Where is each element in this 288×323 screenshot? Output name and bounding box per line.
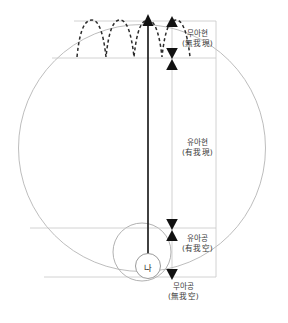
marker-up-yua-gong-icon: [166, 230, 178, 241]
label-yua-gong-hanja: (有我空): [182, 244, 213, 254]
marker-down-bottom-icon: [166, 269, 178, 280]
label-yua-hyeon-korean: 유아현: [187, 138, 209, 147]
label-yua-hyeon: 유아현 (有我現): [182, 138, 213, 157]
label-mua-hyeon: 무아현 (無我現): [182, 29, 213, 48]
label-mua-gong-korean: 무아공: [173, 282, 195, 291]
outer-circle: [19, 25, 266, 272]
label-yua-gong: 유아공 (有我空): [182, 234, 213, 253]
diagram-canvas: 나 무아현 (無我現) 유아현 (有我現) 유아공 (有我空) 무아공 (無我空…: [0, 0, 288, 323]
self-node-label: 나: [138, 261, 158, 273]
label-mua-hyeon-hanja: (無我現): [182, 39, 213, 49]
diagram-svg: [0, 0, 288, 323]
label-yua-hyeon-hanja: (有我現): [182, 148, 213, 158]
marker-up-top-icon: [166, 16, 178, 27]
marker-up-yua-hyeon-icon: [166, 59, 178, 70]
label-mua-gong: 무아공 (無我空): [168, 282, 199, 301]
label-mua-hyeon-korean: 무아현: [187, 29, 209, 38]
label-mua-gong-hanja: (無我空): [168, 292, 199, 302]
marker-down-mua-hyeon-icon: [166, 48, 178, 59]
axis-arrowhead-up-icon: [143, 14, 154, 26]
label-yua-gong-korean: 유아공: [187, 234, 209, 243]
